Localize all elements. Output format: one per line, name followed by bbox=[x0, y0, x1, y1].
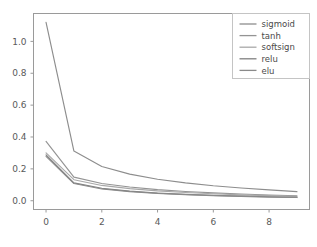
legend-label-relu: relu bbox=[262, 54, 278, 64]
y-tick-label: 1.0 bbox=[12, 37, 27, 47]
y-tick-label: 0.4 bbox=[12, 132, 27, 142]
legend-label-sigmoid: sigmoid bbox=[262, 19, 295, 29]
x-tick-label: 6 bbox=[210, 217, 216, 227]
x-tick-label: 2 bbox=[99, 217, 105, 227]
y-tick-label: 0.8 bbox=[12, 68, 27, 78]
line-chart: 0.00.20.40.60.81.0 02468 sigmoidtanhsoft… bbox=[0, 0, 317, 247]
y-tick-label: 0.0 bbox=[12, 196, 27, 206]
chart-legend: sigmoidtanhsoftsignreluelu bbox=[233, 14, 310, 79]
legend-label-elu: elu bbox=[262, 66, 275, 76]
x-tick-label: 0 bbox=[43, 217, 49, 227]
y-tick-label: 0.6 bbox=[12, 100, 27, 110]
legend-label-tanh: tanh bbox=[262, 31, 281, 41]
y-tick-label: 0.2 bbox=[12, 164, 26, 174]
x-tick-label: 8 bbox=[266, 217, 272, 227]
chart-figure: 0.00.20.40.60.81.0 02468 sigmoidtanhsoft… bbox=[0, 0, 317, 247]
x-tick-label: 4 bbox=[155, 217, 161, 227]
legend-label-softsign: softsign bbox=[262, 42, 295, 52]
